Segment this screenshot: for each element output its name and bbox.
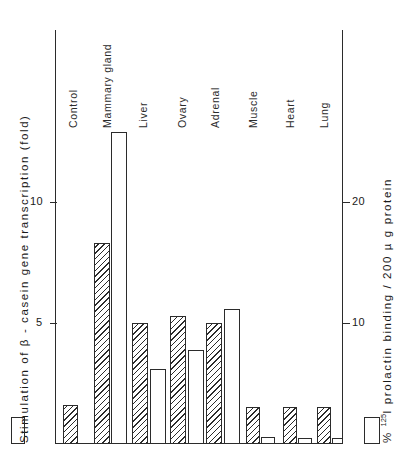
bar-adrenal-transcription (206, 323, 222, 444)
right-axis-title-prefix: % (381, 426, 393, 443)
bar-adrenal-binding (224, 309, 240, 444)
left-tick-label-10: 10 (30, 195, 43, 207)
category-label-lung: Lung (318, 102, 330, 128)
right-tick-label-20: 20 (352, 195, 365, 207)
right-tick-label-10: 10 (352, 316, 365, 328)
left-tick-10 (50, 202, 57, 203)
bar-mammary-gland-binding (111, 132, 127, 444)
left-tick-label-5: 5 (36, 316, 43, 328)
left-tick-5 (50, 323, 57, 324)
bar-ovary-binding (188, 350, 204, 444)
bar-liver-transcription (132, 323, 148, 444)
category-label-ovary: Ovary (176, 96, 188, 128)
right-axis-line (342, 30, 343, 444)
bar-muscle-binding (261, 437, 275, 444)
category-label-heart: Heart (284, 99, 296, 128)
chart-figure: Stimulation of β - casein gene transcrip… (0, 0, 399, 461)
bar-lung-transcription (317, 407, 331, 444)
bar-liver-binding (150, 369, 166, 444)
right-tick-10 (343, 323, 350, 324)
category-label-adrenal: Adrenal (209, 87, 221, 128)
left-axis-title: Stimulation of β - casein gene transcrip… (18, 114, 30, 443)
left-axis-line (55, 30, 56, 444)
legend-hatched-swatch (11, 417, 25, 444)
right-axis-title: % 125I prolactin binding / 200 µ g prote… (379, 178, 393, 443)
bar-control-transcription (63, 405, 78, 444)
right-axis-title-superscript: 125 (379, 414, 388, 427)
legend-open-swatch (364, 417, 380, 444)
right-tick-20 (343, 202, 350, 203)
bar-mammary-gland-transcription (94, 243, 110, 444)
category-label-liver: Liver (137, 102, 149, 128)
category-label-control: Control (67, 89, 79, 128)
bar-muscle-transcription (246, 407, 260, 444)
right-axis-title-main: I prolactin binding / 200 µ g protein (381, 178, 393, 414)
category-label-mammary-gland: Mammary gland (101, 44, 113, 128)
category-label-muscle: Muscle (247, 91, 259, 128)
bar-ovary-transcription (170, 316, 186, 444)
bar-heart-binding (298, 438, 312, 444)
bar-heart-transcription (283, 407, 297, 444)
bar-lung-binding (332, 438, 343, 444)
